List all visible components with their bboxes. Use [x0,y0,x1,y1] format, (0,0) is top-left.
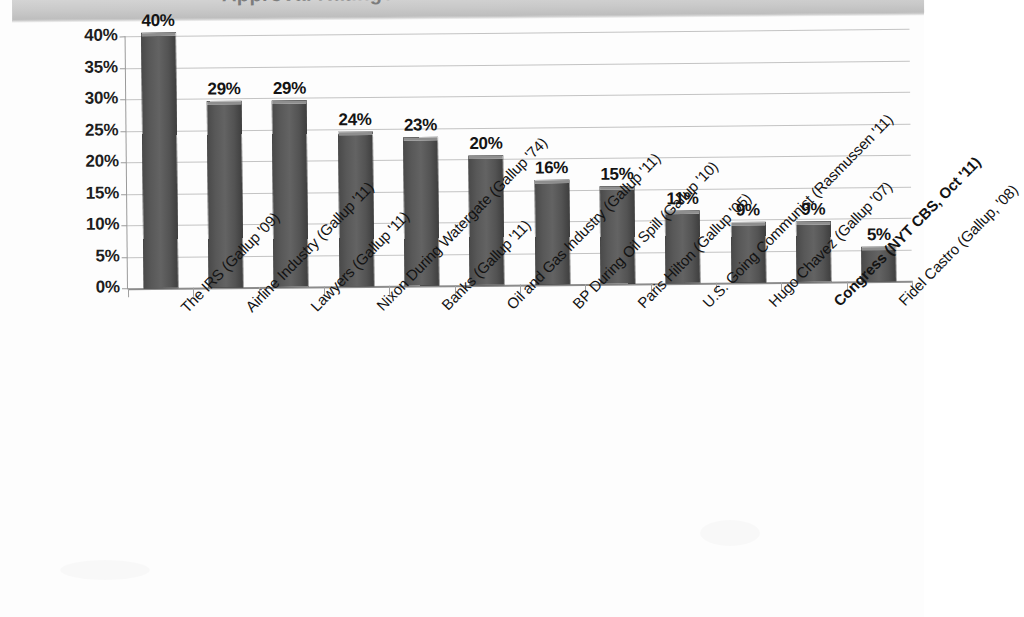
x-axis-tick [389,286,390,295]
bar-value-label: 9% [718,200,778,221]
y-axis-tick-label: 25% [44,120,118,141]
bar-value-label: 16% [521,158,581,179]
x-axis-tick [455,285,456,294]
x-axis-category-label: U.S. Going Communist (Rasmussen '11) [699,299,711,311]
x-axis-category-label: Congress (NYT CBS, Oct '11) [830,298,842,310]
scan-artifact [700,520,760,546]
gridline [127,186,911,195]
y-axis-tick-label: 0% [46,277,120,298]
gridline [127,155,911,164]
x-axis-category-label: Paris Hilton (Gallup '05) [634,299,646,311]
x-axis-tick [585,284,586,293]
y-axis-labels: 40%35%30%25%20%15%10%5%0% [38,36,120,289]
bar [404,137,439,285]
y-axis-tick-label: 35% [44,57,118,78]
bar [535,180,570,284]
bar [862,246,896,281]
bar-value-label: 40% [128,11,188,32]
bar [666,211,701,284]
y-axis-tick [120,36,126,37]
bar-value-label: 29% [194,79,254,100]
x-axis-category-label: Oil and Gas Industry (Gallup '11) [503,301,515,313]
x-axis-tick [847,281,848,290]
y-axis-tick [121,194,127,195]
y-axis-tick [120,131,126,132]
x-axis-category-label: BP During Oil Spill (Gallup '10) [569,300,581,312]
bar-value-label: 29% [259,79,319,100]
x-axis-category-label: Banks (Gallup '11) [438,301,450,313]
bar [796,222,831,282]
bar-value-label: 11% [652,188,712,209]
bar [338,132,373,287]
x-axis-tick [193,288,194,297]
x-axis-tick [324,286,325,295]
y-axis-tick-label: 20% [45,151,119,172]
y-axis-tick-label: 15% [45,183,119,204]
bar-value-label: 24% [325,110,385,131]
x-axis-tick [259,287,260,296]
x-axis-tick [128,288,129,297]
bar [600,186,635,284]
x-axis-tick [651,283,652,292]
bar-value-label: 23% [390,115,450,136]
y-axis-tick [121,162,127,163]
x-axis-tick [781,282,782,291]
scan-artifact [60,560,150,580]
x-axis-category-label: Airline Industry (Gallup '11) [242,303,254,315]
bar [273,101,309,287]
bar [141,33,177,288]
y-axis-tick [122,257,128,258]
gridline [128,249,912,258]
y-axis-tick [120,68,126,69]
y-axis-tick-label: 30% [44,88,118,109]
bar-value-label: 9% [783,200,843,221]
y-axis-tick-label: 40% [43,25,117,46]
x-axis-tick [520,285,521,294]
gridline [126,123,910,132]
bar [207,102,243,288]
x-axis-category-label: Hugo Chavez (Gallup '07) [765,298,777,310]
bar [731,223,766,283]
bar [469,156,504,285]
y-axis-tick [121,225,127,226]
y-axis-tick [120,99,126,100]
y-axis-tick-label: 10% [45,214,119,235]
x-axis-category-label: Lawyers (Gallup '11) [307,303,319,315]
bar-value-label: 15% [587,164,647,185]
bar-chart: 40%35%30%25%20%15%10%5%0% 40%29%29%24%23… [0,0,927,617]
x-axis-category-label: The IRS (Gallup '09) [177,304,189,316]
bar-value-label: 5% [849,224,909,245]
y-axis-tick-label: 5% [46,246,120,267]
x-axis-category-label: Nixon During Watergate (Gallup '74) [373,302,385,314]
x-axis-category-label: Fidel Castro (Gallup, '08) [895,297,907,309]
x-axis-tick [716,283,717,292]
x-axis-tick [912,281,913,290]
plot-area: 40%29%29%24%23%20%16%15%11%9%9%5% [126,29,912,289]
gridline [126,29,910,38]
gridline [126,60,910,69]
bar-value-label: 20% [456,134,516,155]
